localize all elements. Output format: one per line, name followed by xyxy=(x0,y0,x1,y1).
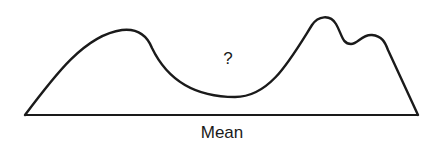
distribution-diagram: ? Mean xyxy=(0,0,444,142)
distribution-curve xyxy=(25,17,418,115)
question-mark-annotation: ? xyxy=(223,49,232,68)
mean-axis-label: Mean xyxy=(201,123,244,142)
